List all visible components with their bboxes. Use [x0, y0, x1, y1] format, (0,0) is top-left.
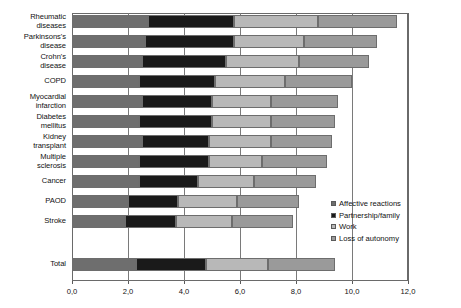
x-tick-label: 12,0	[388, 287, 428, 296]
bar-segment	[209, 155, 262, 168]
bar-segment	[128, 195, 178, 208]
bar-segment	[72, 215, 125, 228]
bar-segment	[136, 258, 206, 271]
bar-segment	[142, 55, 226, 68]
bar-segment	[72, 95, 142, 108]
bar-segment	[271, 115, 335, 128]
bar-segment	[72, 115, 139, 128]
axis-tick	[128, 281, 129, 284]
category-label-text: Stroke	[0, 217, 66, 226]
bar-row	[72, 15, 408, 28]
bar-row	[72, 115, 408, 128]
bar-segment	[139, 75, 215, 88]
bar-segment	[271, 95, 338, 108]
legend-label: Partnership/family	[339, 211, 400, 220]
bar-segment	[234, 35, 304, 48]
bar-segment	[254, 175, 316, 188]
legend-item: Work	[331, 222, 357, 231]
bar-segment	[262, 155, 326, 168]
axis-tick	[72, 281, 73, 284]
bar-segment	[318, 15, 396, 28]
bar-segment	[232, 215, 294, 228]
bar-segment	[145, 35, 235, 48]
gridline	[408, 13, 409, 281]
x-tick-label: 6,0	[220, 287, 260, 296]
category-label-text: Rheumatic diseases	[0, 13, 66, 30]
legend-swatch-icon	[331, 213, 336, 218]
axis-tick	[352, 281, 353, 284]
bar-segment	[148, 15, 235, 28]
x-tick-label: 2,0	[108, 287, 148, 296]
bar-segment	[226, 55, 299, 68]
stacked-bar-chart: Rheumatic diseasesParkinsons's diseaseCr…	[0, 0, 461, 308]
bar-segment	[72, 195, 128, 208]
bar-row	[72, 35, 408, 48]
legend-swatch-icon	[331, 236, 336, 241]
bar-segment	[72, 35, 145, 48]
bar-row	[72, 155, 408, 168]
axis-tick	[184, 281, 185, 284]
category-label-text: Kidney transplant	[0, 133, 66, 150]
bar-segment	[237, 195, 299, 208]
bar-segment	[215, 75, 285, 88]
bar-row	[72, 95, 408, 108]
x-tick-label: 8,0	[276, 287, 316, 296]
bar-segment	[139, 155, 209, 168]
bar-segment	[72, 155, 139, 168]
legend-item: Affective reactions	[331, 199, 401, 208]
x-tick-label: 0,0	[52, 287, 92, 296]
legend-label: Loss of autonomy	[339, 234, 399, 243]
bar-segment	[304, 35, 377, 48]
bar-segment	[299, 55, 369, 68]
bar-segment	[212, 115, 271, 128]
bar-row	[72, 55, 408, 68]
axis-tick	[408, 281, 409, 284]
bar-segment	[139, 115, 212, 128]
bar-segment	[206, 258, 268, 271]
bar-segment	[285, 75, 352, 88]
bar-segment	[142, 135, 209, 148]
category-label-text: Diabetes mellitus	[0, 113, 66, 130]
legend-label: Affective reactions	[339, 199, 401, 208]
bar-row	[72, 75, 408, 88]
axis-tick	[296, 281, 297, 284]
bar-segment	[271, 135, 333, 148]
x-tick-label: 10,0	[332, 287, 372, 296]
category-label-text: Cancer	[0, 177, 66, 186]
bar-row	[72, 258, 408, 271]
category-label-text: Parkinsons's disease	[0, 33, 66, 50]
legend-item: Partnership/family	[331, 211, 400, 220]
x-tick-label: 4,0	[164, 287, 204, 296]
bar-segment	[142, 95, 212, 108]
bar-segment	[72, 55, 142, 68]
bar-segment	[178, 195, 237, 208]
bar-row	[72, 135, 408, 148]
legend-swatch-icon	[331, 224, 336, 229]
legend-swatch-icon	[331, 201, 336, 206]
bar-segment	[72, 75, 139, 88]
category-label-text: PAOD	[0, 197, 66, 206]
category-label-text: Crohn's disease	[0, 53, 66, 70]
bar-segment	[72, 135, 142, 148]
bar-segment	[72, 175, 139, 188]
axis-tick	[240, 281, 241, 284]
bar-segment	[234, 15, 318, 28]
bar-row	[72, 175, 408, 188]
bar-segment	[268, 258, 335, 271]
category-label-text: COPD	[0, 77, 66, 86]
category-label-text: Myocardial infarction	[0, 93, 66, 110]
legend-label: Work	[339, 222, 357, 231]
bar-segment	[139, 175, 198, 188]
bar-segment	[209, 135, 271, 148]
category-label-text: Multiple sclerosis	[0, 153, 66, 170]
legend-item: Loss of autonomy	[331, 234, 399, 243]
bar-segment	[212, 95, 271, 108]
bar-segment	[176, 215, 232, 228]
bar-segment	[198, 175, 254, 188]
bar-segment	[72, 258, 136, 271]
bar-segment	[125, 215, 175, 228]
bar-segment	[72, 15, 148, 28]
category-label-text: Total	[0, 260, 66, 269]
